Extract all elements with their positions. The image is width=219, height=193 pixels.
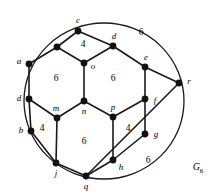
graph-edge-j-q bbox=[56, 163, 86, 176]
vertex-label-g: g bbox=[154, 130, 159, 139]
face-label-top-right-6: 6 bbox=[139, 28, 144, 38]
face-label-left-6: 6 bbox=[54, 74, 59, 84]
graph-vertex-unlabeled-v1 bbox=[54, 44, 61, 51]
vertex-label-q: q bbox=[84, 182, 89, 191]
graph-vertex-d1 bbox=[110, 43, 117, 50]
graph-figure: cdoaerdnfmpbgjhq 64664466 G6 bbox=[0, 0, 219, 193]
face-label-bottom-right-6: 6 bbox=[146, 156, 151, 166]
vertex-label-j: j bbox=[55, 169, 58, 178]
graph-edge-d2-b bbox=[29, 99, 31, 131]
vertex-label-m: m bbox=[53, 104, 60, 113]
graph-vertex-c bbox=[75, 28, 82, 35]
vertex-label-p: p bbox=[111, 103, 116, 112]
vertex-label-f: f bbox=[154, 96, 157, 105]
vertex-label-a: a bbox=[17, 57, 22, 66]
graph-vertex-f bbox=[142, 96, 149, 103]
face-label-lower-right-4: 4 bbox=[126, 124, 131, 134]
graph-edge-m-j bbox=[56, 118, 57, 163]
graph-edge-n-m bbox=[57, 101, 84, 118]
graph-vertex-q bbox=[83, 173, 90, 180]
graph-edge-d1-o bbox=[84, 46, 113, 63]
graph-vertex-r bbox=[176, 80, 183, 87]
graph-edge-b-j bbox=[31, 131, 56, 163]
graph-vertex-d2 bbox=[26, 96, 33, 103]
graph-vertex-m bbox=[54, 115, 61, 122]
graph-vertex-a bbox=[26, 61, 33, 68]
graph-name-label: G6 bbox=[193, 162, 204, 175]
graph-vertex-g bbox=[142, 131, 149, 138]
vertex-label-b: b bbox=[19, 126, 24, 135]
graph-edge-r-q bbox=[86, 83, 179, 176]
graph-vertex-o bbox=[81, 60, 88, 67]
graph-name-subscript: 6 bbox=[200, 167, 204, 175]
vertex-label-d1: d bbox=[112, 32, 117, 41]
graph-vertex-b bbox=[28, 128, 35, 135]
graph-edge-g-h bbox=[113, 134, 145, 160]
face-label-right-6: 6 bbox=[111, 74, 116, 84]
vertex-label-n: n bbox=[82, 107, 87, 116]
vertex-label-h: h bbox=[119, 163, 124, 172]
graph-vertex-p bbox=[110, 114, 117, 121]
graph-vertex-e bbox=[142, 64, 149, 71]
graph-vertex-n bbox=[81, 98, 88, 105]
vertex-label-e: e bbox=[144, 53, 148, 62]
vertex-label-r: r bbox=[187, 77, 191, 86]
graph-canvas bbox=[0, 0, 219, 193]
face-label-top-4: 4 bbox=[81, 40, 86, 50]
face-label-lower-left-4: 4 bbox=[40, 124, 45, 134]
vertex-label-c: c bbox=[76, 16, 80, 25]
graph-edge-c-v1 bbox=[57, 31, 78, 47]
graph-vertex-h bbox=[110, 157, 117, 164]
face-label-bottom-6: 6 bbox=[82, 137, 87, 147]
graph-edge-d1-e bbox=[113, 46, 145, 67]
graph-edge-n-p bbox=[84, 101, 113, 117]
vertex-label-o: o bbox=[91, 62, 96, 71]
graph-vertex-j bbox=[53, 160, 60, 167]
vertex-label-d2: d bbox=[17, 94, 22, 103]
graph-edge-e-r bbox=[145, 67, 179, 83]
graph-edge-f-p bbox=[113, 99, 145, 117]
